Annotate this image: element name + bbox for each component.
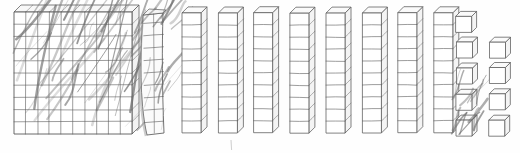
rod-block — [254, 7, 279, 133]
edge-slab-face — [141, 13, 164, 135]
pencil-tick-mark — [231, 140, 232, 150]
rod-block — [362, 7, 387, 133]
face — [457, 42, 473, 58]
face — [490, 42, 506, 58]
unit-cube — [457, 37, 478, 58]
unit-cube-group-units-column-b — [489, 37, 511, 136]
unit-cube — [489, 89, 510, 110]
face — [489, 68, 505, 84]
face — [456, 16, 472, 32]
rod-block — [218, 7, 243, 133]
face — [237, 7, 243, 133]
face — [489, 120, 505, 136]
unit-cube-group-units-column-a — [452, 11, 492, 136]
base-ten-blocks-canvas: Base-Ten Blocks Place-Value Illustration… — [0, 0, 520, 153]
rod-block — [290, 7, 315, 133]
unit-cube — [456, 11, 477, 32]
scribble-stroke — [476, 75, 486, 104]
rod-block — [326, 7, 351, 133]
rod-block — [398, 7, 423, 133]
unit-cube — [490, 37, 511, 58]
face — [489, 94, 505, 110]
rod-block — [434, 7, 459, 133]
unit-cube — [489, 63, 510, 84]
blocks-illustration — [0, 0, 520, 153]
face — [201, 7, 207, 133]
unit-cube — [489, 115, 510, 136]
rod-group — [182, 7, 459, 134]
rod-block — [182, 7, 207, 133]
